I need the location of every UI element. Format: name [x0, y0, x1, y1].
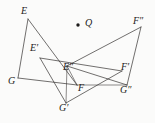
vertex-label-F-prime: F′	[121, 62, 129, 72]
vertex-label-E: E	[21, 6, 27, 16]
vertex-label-E-prime: E′	[30, 43, 38, 53]
geometry-figure: E G F E′ G′ F′ E″ G″ F″ Q	[0, 0, 155, 123]
vertex-label-E-double-prime: E″	[63, 62, 73, 72]
segment-Gpp-Fpp	[127, 27, 141, 85]
vertex-label-F: F	[78, 83, 84, 93]
points-group	[76, 23, 79, 26]
vertex-label-G-double-prime: G″	[120, 85, 131, 95]
segment-G-F	[18, 78, 77, 85]
vertex-label-G-prime: G′	[59, 103, 68, 113]
segment-E-G	[18, 19, 28, 78]
segment-Epp-Gpp	[67, 66, 127, 85]
center-point-Q-dot	[76, 23, 79, 26]
figure-canvas	[0, 0, 155, 123]
vertex-label-F-double-prime: F″	[133, 16, 143, 26]
vertex-label-G: G	[8, 76, 15, 86]
segment-Gp-Fp	[66, 71, 122, 103]
center-point-label-Q: Q	[85, 18, 92, 28]
segment-Epp-Fpp	[67, 27, 141, 66]
segment-Ep-Fp	[40, 58, 122, 71]
